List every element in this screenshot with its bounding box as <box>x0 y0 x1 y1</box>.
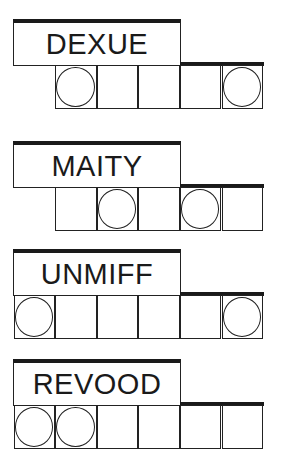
scrambled-word-box: DEXUE <box>13 19 181 66</box>
letter-cell[interactable] <box>180 65 222 109</box>
letter-cell[interactable] <box>55 405 97 449</box>
letter-cell[interactable] <box>222 295 264 339</box>
letter-cell[interactable] <box>97 295 139 339</box>
letter-cell[interactable] <box>138 65 180 109</box>
letter-cell[interactable] <box>222 65 264 109</box>
letter-cell[interactable] <box>97 405 139 449</box>
letter-cell[interactable] <box>138 295 180 339</box>
letter-cell[interactable] <box>138 405 180 449</box>
letter-cell[interactable] <box>97 187 139 231</box>
letter-cell[interactable] <box>55 65 97 109</box>
circle-marker-icon <box>15 297 54 337</box>
circle-marker-icon <box>181 189 220 229</box>
letter-cell[interactable] <box>97 65 139 109</box>
circle-marker-icon <box>98 189 137 229</box>
scrambled-word-box: REVOOD <box>13 359 181 406</box>
letter-cell[interactable] <box>180 187 222 231</box>
scrambled-word-box: UNMIFF <box>13 249 181 296</box>
letter-cell[interactable] <box>55 295 97 339</box>
letter-cell[interactable] <box>222 187 264 231</box>
circle-marker-icon <box>56 407 95 447</box>
letter-cell[interactable] <box>14 405 56 449</box>
letter-cell[interactable] <box>180 295 222 339</box>
scrambled-word: MAITY <box>51 152 142 181</box>
letter-cell[interactable] <box>55 187 97 231</box>
circle-marker-icon <box>56 67 95 107</box>
scrambled-word-box: MAITY <box>13 141 181 188</box>
circle-marker-icon <box>15 407 54 447</box>
scrambled-word: REVOOD <box>33 370 162 399</box>
scrambled-word: UNMIFF <box>41 260 154 289</box>
letter-cell[interactable] <box>14 295 56 339</box>
scrambled-word: DEXUE <box>46 30 148 59</box>
letter-cell[interactable] <box>180 405 222 449</box>
letter-cell[interactable] <box>138 187 180 231</box>
circle-marker-icon <box>223 297 262 337</box>
letter-cell[interactable] <box>222 405 264 449</box>
circle-marker-icon <box>223 67 262 107</box>
